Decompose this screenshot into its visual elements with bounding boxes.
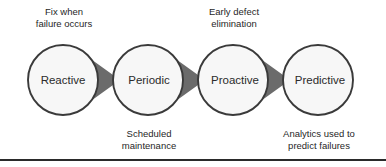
note-predictive-line-1: Analytics used to	[283, 128, 355, 139]
note-reactive-line-2: failure occurs	[36, 18, 93, 29]
stage-label-periodic: Periodic	[128, 74, 170, 86]
stage-label-proactive: Proactive	[211, 74, 259, 86]
maturity-progression-diagram: Fix when failure occurs Early defect eli…	[0, 0, 386, 167]
diagram-canvas: Fix when failure occurs Early defect eli…	[0, 0, 386, 167]
note-proactive-line-2: elimination	[211, 18, 256, 29]
stage-label-predictive: Predictive	[295, 74, 346, 86]
note-periodic-line-1: Scheduled	[127, 128, 172, 139]
note-periodic-line-2: maintenance	[122, 140, 176, 151]
note-predictive-line-2: predict failures	[288, 140, 350, 151]
note-proactive-line-1: Early defect	[209, 6, 260, 17]
stage-label-reactive: Reactive	[41, 74, 86, 86]
note-reactive-line-1: Fix when	[45, 6, 83, 17]
